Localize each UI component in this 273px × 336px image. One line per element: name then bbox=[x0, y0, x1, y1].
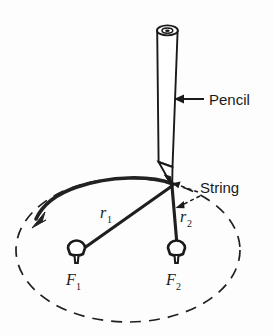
r1-label-group: r 1 bbox=[100, 204, 112, 225]
tack-f2-group bbox=[168, 241, 185, 263]
tack-f1-pin bbox=[75, 255, 79, 263]
f1-subscript: 1 bbox=[76, 281, 81, 292]
pencil-center-dot bbox=[165, 29, 170, 32]
tack-f1-group bbox=[68, 241, 85, 263]
r1-label: r bbox=[100, 204, 107, 221]
string-label: String bbox=[200, 179, 239, 196]
r1-subscript: 1 bbox=[107, 214, 112, 225]
tack-f2-head bbox=[168, 241, 185, 256]
string-annotation-group: String bbox=[172, 179, 239, 208]
f1-label: F bbox=[65, 271, 76, 288]
pencil-annotation-group: Pencil bbox=[174, 91, 250, 108]
r2-label-group: r 2 bbox=[180, 208, 192, 229]
f2-label: F bbox=[165, 271, 176, 288]
string-r2 bbox=[172, 186, 177, 245]
pencil-label: Pencil bbox=[209, 91, 250, 108]
tack-f1-head bbox=[68, 241, 85, 256]
string-leader-lower bbox=[182, 196, 200, 205]
f2-subscript: 2 bbox=[176, 281, 181, 292]
f1-label-group: F 1 bbox=[65, 271, 81, 292]
string-leader-upper bbox=[178, 185, 198, 192]
pencil-group bbox=[157, 25, 178, 186]
f2-label-group: F 2 bbox=[165, 271, 181, 292]
string-group bbox=[80, 186, 177, 251]
figure-container: Pencil String r 1 r 2 F 1 F 2 bbox=[0, 0, 273, 336]
tack-f2-pin bbox=[175, 255, 179, 263]
ellipse-construction-diagram: Pencil String r 1 r 2 F 1 F 2 bbox=[0, 0, 273, 336]
r2-subscript: 2 bbox=[187, 218, 192, 229]
r2-label: r bbox=[180, 208, 187, 225]
string-r1 bbox=[80, 186, 172, 251]
